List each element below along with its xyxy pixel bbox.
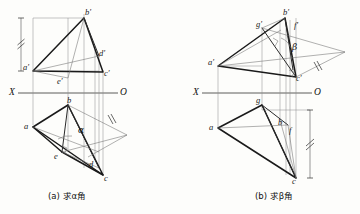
panel-b-label-b: b <box>278 118 282 127</box>
panel-a-label-c-prime: c′ <box>104 69 110 78</box>
panel-b-label-a-prime: a′ <box>208 58 214 67</box>
panel-b-label-g: g <box>256 96 260 105</box>
panel-b-label-b-prime: b′ <box>283 8 289 17</box>
panel-b-front-view <box>218 18 345 77</box>
panel-b-label-f: f <box>289 126 291 135</box>
panel-a-label-b-prime: b′ <box>85 8 91 17</box>
panel-a-label-d: d <box>89 160 93 169</box>
panel-b-dimension <box>306 110 314 178</box>
panel-a-label-e-prime: e′ <box>57 77 63 86</box>
panel-a-label-a-prime: a′ <box>23 63 29 72</box>
panel-a-label-a: a <box>24 122 28 131</box>
panel-a-label-d-prime: d′ <box>99 49 105 58</box>
panel-b-axis-label-o: O <box>314 88 321 98</box>
panel-b-angle-beta: β <box>292 43 297 52</box>
panel-b-caption: (b) 求β角 <box>255 192 293 201</box>
panel-b-label-a: a <box>209 123 213 132</box>
panel-b-label-c-prime: c′ <box>296 74 302 83</box>
panel-a-caption: (a) 求α角 <box>48 192 86 201</box>
panel-b-label-c: c <box>292 177 296 186</box>
panel-a-axis-label-x: X <box>9 88 15 98</box>
panel-a-group <box>18 14 128 175</box>
panel-a-label-c: c <box>104 174 108 183</box>
panel-a-top-view <box>33 105 127 175</box>
panel-a-angle-alpha: α <box>78 126 84 135</box>
panel-b-group <box>202 18 345 178</box>
technical-drawing-canvas: .thick{stroke:#1a1a1a;stroke-width:1.5;f… <box>0 0 360 214</box>
panel-b-label-f-prime: f′ <box>294 21 298 30</box>
panel-b-axis-label-x: X <box>193 88 199 98</box>
panel-b-top-view <box>218 105 296 178</box>
panel-a-label-e: e <box>54 152 58 161</box>
panel-a-label-b: b <box>67 96 71 105</box>
panel-b-label-g-prime: g′ <box>256 20 262 29</box>
panel-a-axis-label-o: O <box>120 88 127 98</box>
figure-root: .thick{stroke:#1a1a1a;stroke-width:1.5;f… <box>0 0 360 214</box>
